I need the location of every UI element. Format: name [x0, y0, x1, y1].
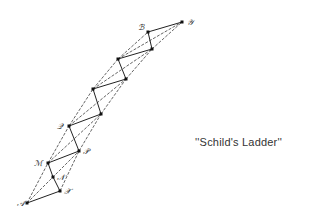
point-y [181, 21, 184, 24]
solid-line [69, 114, 101, 126]
point-p [78, 150, 81, 153]
point-q [68, 125, 71, 128]
dashed-geodesics [27, 22, 182, 203]
solid-line [118, 59, 126, 79]
diagram-caption: ''Schild's Ladder'' [195, 136, 282, 148]
solid-line [148, 32, 152, 49]
dashed-line [93, 59, 118, 89]
solid-line [27, 191, 60, 203]
solid-line [93, 79, 126, 89]
point-labels: 𝒜𝒳𝒩ℳ𝒫𝒬ℬ𝒴 [17, 18, 196, 208]
dashed-line [69, 89, 93, 126]
point-m [47, 162, 50, 165]
label-q: 𝒬 [57, 122, 64, 131]
label-m: ℳ [34, 159, 44, 168]
label-n: 𝒩 [57, 173, 67, 182]
solid-line [69, 126, 79, 151]
point-x [59, 190, 62, 193]
dashed-line [126, 49, 152, 79]
point-b [147, 31, 150, 34]
label-p: 𝒫 [83, 147, 91, 156]
label-y: 𝒴 [187, 18, 196, 27]
point-r2 [125, 78, 128, 81]
dashed-line [48, 126, 69, 163]
solid-line [93, 89, 101, 114]
point-n [52, 176, 55, 179]
ladder-rungs [27, 22, 182, 203]
point-c2 [92, 88, 95, 91]
point-r1 [100, 113, 103, 116]
dashed-line [79, 114, 101, 151]
point-a [26, 202, 29, 205]
label-b: ℬ [138, 23, 145, 32]
point-r3 [151, 48, 154, 51]
solid-line [48, 163, 53, 177]
ladder-points [26, 21, 184, 205]
label-x: 𝒳 [64, 187, 74, 196]
schilds-ladder-diagram: 𝒜𝒳𝒩ℳ𝒫𝒬ℬ𝒴 [0, 0, 310, 219]
point-c3 [117, 58, 120, 61]
